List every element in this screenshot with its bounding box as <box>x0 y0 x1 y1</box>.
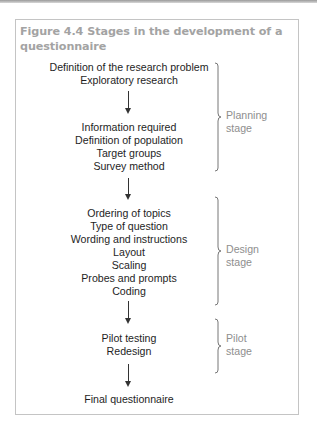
stage-label-pilot: Pilot stage <box>226 332 252 358</box>
flow-item: Definition of population <box>29 134 229 147</box>
flow-item: Pilot testing <box>29 332 229 345</box>
stage-label-design: Design stage <box>226 243 259 269</box>
stage-label-planning: Planning stage <box>226 109 267 135</box>
flow-item: Type of question <box>29 220 229 233</box>
flow-item: Information required <box>29 121 229 134</box>
flow-item: Wording and instructions <box>29 233 229 246</box>
flow-item: Probes and prompts <box>29 272 229 285</box>
flow-item: Survey method <box>29 160 229 173</box>
flow-item: Scaling <box>29 259 229 272</box>
right-curly-brace-icon <box>213 318 223 374</box>
flow-item: Definition of the research problem <box>29 61 229 74</box>
flow-item: Layout <box>29 246 229 259</box>
flow-item: Exploratory research <box>29 74 229 87</box>
flow-final-item: Final questionnaire <box>29 393 229 406</box>
figure-title: Figure 4.4Stages in the development of a… <box>20 24 290 54</box>
flow-item: Target groups <box>29 147 229 160</box>
right-curly-brace-icon <box>213 62 223 172</box>
flow-item: Coding <box>29 285 229 298</box>
flow-item: Redesign <box>29 345 229 358</box>
figure-number: Figure 4.4 <box>20 25 83 38</box>
right-curly-brace-icon <box>213 196 223 306</box>
top-edge-band <box>0 0 317 3</box>
flow-item: Ordering of topics <box>29 207 229 220</box>
